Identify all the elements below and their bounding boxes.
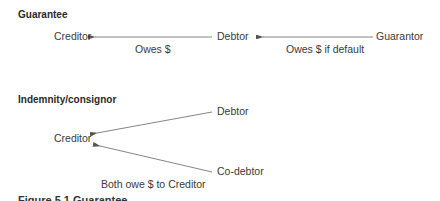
node-creditor: Creditor xyxy=(54,30,91,42)
indemnity-title: Indemnity/consignor xyxy=(18,94,116,105)
edge-label-owes-if-default: Owes $ if default xyxy=(286,43,364,55)
node-debtor-2: Debtor xyxy=(217,105,249,117)
node-guarantor: Guarantor xyxy=(376,30,423,42)
node-creditor-2: Creditor xyxy=(54,132,91,144)
guarantee-title: Guarantee xyxy=(18,9,67,20)
arrow-debtor-to-creditor-2 xyxy=(97,112,212,133)
node-debtor: Debtor xyxy=(217,30,249,42)
arrow-codebtor-to-creditor xyxy=(100,146,212,172)
indemnity-label: Both owe $ to Creditor xyxy=(101,178,205,190)
node-codebtor: Co-debtor xyxy=(217,165,264,177)
figure-caption: Figure 5.1 Guarantee xyxy=(18,194,127,201)
edge-label-owes: Owes $ xyxy=(135,43,171,55)
